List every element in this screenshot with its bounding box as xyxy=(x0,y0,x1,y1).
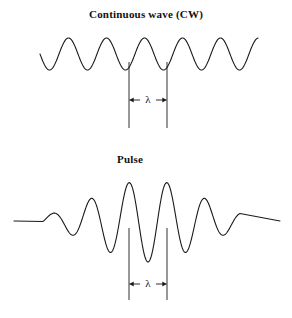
pulse-wavelength-label: λ xyxy=(129,278,167,289)
cw-wavelength-label: λ xyxy=(129,94,167,105)
pulse-wave-path xyxy=(14,183,280,262)
cw-wave-path xyxy=(40,38,258,70)
cw-panel-title: Continuous wave (CW) xyxy=(0,8,292,20)
wave-figure: Continuous wave (CW) Pulse λ λ xyxy=(0,0,292,318)
cw-waveform-group xyxy=(40,38,258,128)
pulse-panel-title: Pulse xyxy=(0,153,292,165)
